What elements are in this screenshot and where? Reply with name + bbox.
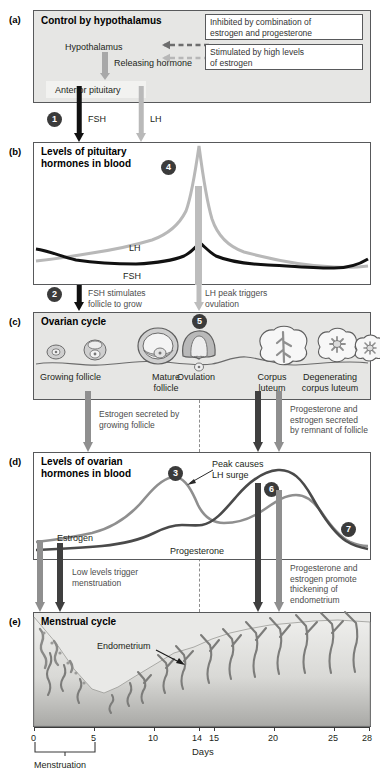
low-level-bar-2 bbox=[57, 543, 63, 560]
axis-label-25: 25 bbox=[328, 733, 338, 744]
degenerating-corpus-luteum-2 bbox=[355, 335, 380, 361]
feedback-stimulate-callout: Stimulated by high levels of estrogen bbox=[205, 44, 363, 70]
axis-tick-5 bbox=[94, 727, 95, 731]
fsh-stimulates-label: FSH stimulates follicle to grow bbox=[88, 288, 146, 309]
lh-curve-label: LH bbox=[129, 243, 141, 254]
degenerating-corpus-luteum-1 bbox=[318, 328, 356, 362]
low-levels-arrow-2 bbox=[53, 560, 67, 612]
axis-tick-20 bbox=[274, 727, 275, 731]
fsh-connector-label: FSH bbox=[88, 114, 106, 125]
endometrium-illustration bbox=[34, 613, 370, 726]
lh-arrow-a-to-b bbox=[135, 86, 147, 142]
menstruation-bracket bbox=[34, 740, 98, 756]
anterior-pituitary-label: Anterior pituitary bbox=[55, 85, 121, 96]
fsh-arrow-a-to-b bbox=[73, 86, 85, 142]
axis-tick-10 bbox=[154, 727, 155, 731]
stage-label-growing-follicle: Growing follicle bbox=[40, 372, 101, 383]
panel-d-letter: (d) bbox=[9, 456, 21, 467]
lh-peak-bar bbox=[195, 186, 202, 285]
axis-tick-15 bbox=[214, 727, 215, 731]
step-marker-2: 2 bbox=[47, 287, 62, 302]
menstrual-cycle-figure: (a) Control by hypothalamus Hypothalamus… bbox=[0, 0, 380, 781]
releasing-hormone-arrow bbox=[99, 52, 111, 80]
low-levels-arrow-1 bbox=[33, 560, 47, 612]
follicle-primary bbox=[84, 340, 106, 360]
lh-peak-triggers-label: LH peak triggers ovulation bbox=[205, 288, 267, 309]
panel-a-letter: (a) bbox=[9, 14, 21, 25]
feedback-stimulate-arrow bbox=[152, 53, 210, 63]
axis-tick-25 bbox=[334, 727, 335, 731]
thickening-arrow-2 bbox=[272, 560, 286, 612]
estrogen-bar-in-panel-d bbox=[255, 483, 261, 560]
progesterone-estrogen-secreted-label: Progesterone and estrogen secreted by re… bbox=[290, 404, 368, 436]
corpus-luteum bbox=[260, 326, 307, 365]
ovarian-cycle-illustration bbox=[34, 326, 370, 374]
feedback-inhibit-callout: Inhibited by combination of estrogen and… bbox=[205, 14, 363, 40]
estrogen-remnant-secretion-arrow bbox=[272, 391, 286, 452]
endometrium-thickness-area bbox=[34, 617, 370, 726]
axis-label-20: 20 bbox=[268, 733, 278, 744]
axis-label-15: 15 bbox=[209, 733, 219, 744]
axis-tick-0 bbox=[34, 727, 35, 731]
low-level-bar-1 bbox=[37, 540, 43, 560]
axis-label-10: 10 bbox=[148, 733, 158, 744]
stage-label-corpus-luteum: Corpus luteum bbox=[249, 372, 295, 393]
estrogen-curve-label: Estrogen bbox=[57, 533, 93, 544]
axis-tick-14 bbox=[199, 727, 200, 731]
fsh-arrow-b-to-c bbox=[73, 285, 85, 311]
step-marker-7: 7 bbox=[341, 522, 356, 537]
thickening-endometrium-label: Progesterone and estrogen promote thicke… bbox=[290, 563, 358, 605]
step-marker-1: 1 bbox=[47, 112, 62, 127]
follicle-ovulation bbox=[183, 331, 215, 371]
hypothalamus-label: Hypothalamus bbox=[65, 42, 123, 53]
panel-a-title: Control by hypothalamus bbox=[41, 15, 162, 27]
thickening-arrow-1 bbox=[251, 560, 265, 612]
axis-title-days: Days bbox=[192, 747, 214, 758]
estrogen-secreted-label: Estrogen secreted by growing follicle bbox=[99, 409, 179, 430]
panel-e-letter: (e) bbox=[9, 616, 21, 627]
follicle-primordial bbox=[47, 345, 65, 359]
endometrium-label: Endometrium bbox=[97, 641, 151, 652]
axis-tick-28 bbox=[369, 727, 370, 731]
estrogen-bar2-in-panel-d bbox=[276, 490, 282, 560]
panel-c-letter: (c) bbox=[9, 316, 21, 327]
panel-b-letter: (b) bbox=[9, 146, 21, 157]
peak-causes-lh-surge-label: Peak causes LH surge bbox=[212, 459, 264, 480]
axis-label-14: 14 bbox=[192, 733, 202, 744]
panel-e-title: Menstrual cycle bbox=[41, 616, 116, 628]
endometrium-leader bbox=[156, 647, 188, 667]
progesterone-curve-label: Progesterone bbox=[170, 546, 224, 557]
stage-label-degenerating-corpus-luteum: Degenerating corpus luteum bbox=[292, 372, 368, 393]
peak-causes-lh-surge-leader bbox=[185, 468, 215, 486]
follicle-mature bbox=[138, 328, 178, 364]
stage-label-ovulation: Ovulation bbox=[177, 372, 215, 383]
progesterone-secretion-arrow bbox=[251, 391, 265, 452]
step-marker-4: 4 bbox=[161, 160, 176, 175]
estrogen-secretion-arrow bbox=[81, 391, 95, 452]
low-levels-trigger-label: Low levels trigger menstruation bbox=[72, 567, 138, 588]
lh-connector-label: LH bbox=[150, 114, 162, 125]
lh-arrow-b-to-c bbox=[193, 285, 205, 311]
menstruation-bracket-label: Menstruation bbox=[34, 760, 86, 771]
fsh-curve-label: FSH bbox=[123, 271, 141, 282]
lh-curve bbox=[36, 146, 368, 267]
axis-label-28: 28 bbox=[362, 733, 372, 744]
step-marker-3: 3 bbox=[168, 466, 183, 481]
x-axis-line bbox=[34, 727, 370, 728]
feedback-inhibit-arrow bbox=[152, 40, 210, 50]
pituitary-hormones-chart bbox=[34, 143, 370, 284]
